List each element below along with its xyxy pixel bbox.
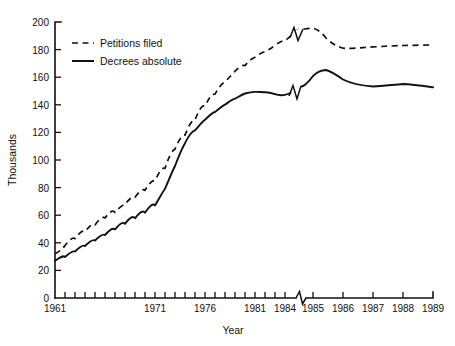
legend-label-petitions-filed: Petitions filed [100, 37, 163, 49]
x-tick-label: 1984 [274, 303, 297, 314]
legend-label-decrees-absolute: Decrees absolute [100, 55, 182, 67]
y-tick-label: 160 [32, 72, 49, 83]
line-chart: 200 180 160 140 120 100 80 60 40 20 0 [0, 0, 455, 346]
y-tick-label: 140 [32, 100, 49, 111]
x-tick-label: 1986 [332, 303, 355, 314]
x-tick-label: 1961 [44, 303, 67, 314]
x-axis-line-right [306, 292, 433, 298]
series-decrees-absolute [55, 70, 433, 261]
y-tick-label: 80 [38, 183, 50, 194]
x-tick-label: 1976 [194, 303, 217, 314]
y-tick-label: 20 [38, 265, 50, 276]
x-axis-title: Year [222, 324, 244, 336]
y-tick-label: 200 [32, 17, 49, 28]
x-axis-tick-labels: 1961 1971 1976 1981 1984 1985 1986 1987 … [44, 303, 445, 314]
y-axis-title: Thousands [6, 134, 18, 186]
y-axis-tick-labels: 200 180 160 140 120 100 80 60 40 20 0 [32, 17, 49, 304]
x-tick-label: 1987 [362, 303, 385, 314]
x-tick-label: 1985 [302, 303, 325, 314]
legend-entry-decrees-absolute: Decrees absolute [72, 55, 182, 67]
x-axis-ticks [65, 292, 403, 298]
y-tick-label: 120 [32, 127, 49, 138]
y-tick-label: 60 [38, 210, 50, 221]
x-tick-label: 1988 [392, 303, 415, 314]
legend-entry-petitions-filed: Petitions filed [72, 37, 163, 49]
y-tick-label: 40 [38, 238, 50, 249]
y-tick-label: 100 [32, 155, 49, 166]
y-tick-label: 180 [32, 45, 49, 56]
x-tick-label: 1981 [244, 303, 267, 314]
chart-container: 200 180 160 140 120 100 80 60 40 20 0 [0, 0, 455, 346]
y-axis-ticks [55, 50, 61, 271]
x-tick-label: 1989 [422, 303, 445, 314]
chart-legend: Petitions filed Decrees absolute [72, 37, 182, 67]
x-tick-label: 1971 [144, 303, 167, 314]
